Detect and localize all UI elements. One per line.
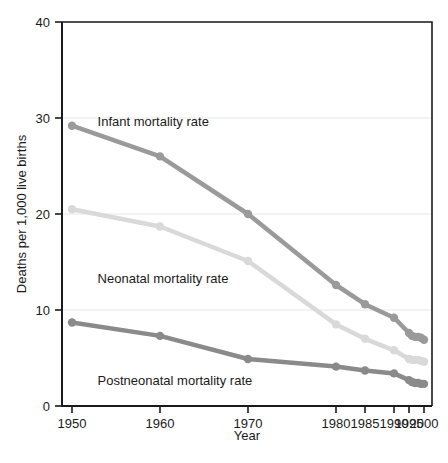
x-tick-label: 1950 (58, 416, 87, 431)
data-point-marker (156, 332, 164, 340)
data-point-marker (244, 257, 252, 265)
x-tick-marks (72, 406, 424, 413)
gridlines-group (62, 22, 432, 310)
data-point-marker (332, 281, 340, 289)
y-axis-title: Deaths per 1,000 live births (14, 134, 29, 293)
data-point-marker (420, 380, 428, 388)
data-point-marker (68, 122, 76, 130)
y-tick-label: 40 (36, 15, 50, 30)
data-point-marker (156, 152, 164, 160)
data-point-marker (390, 346, 398, 354)
data-point-marker (68, 205, 76, 213)
data-point-marker (420, 358, 428, 366)
y-tick-label: 30 (36, 111, 50, 126)
data-point-marker (156, 222, 164, 230)
series-label: Neonatal mortality rate (98, 271, 229, 286)
series-line (72, 126, 424, 340)
x-tick-label: 1980 (322, 416, 351, 431)
data-point-marker (420, 336, 428, 344)
data-point-marker (361, 335, 369, 343)
data-point-marker (390, 314, 398, 322)
series-label: Postneonatal mortality rate (98, 373, 253, 388)
data-point-marker (68, 318, 76, 326)
x-tick-label: 2000 (410, 416, 439, 431)
y-tick-label: 0 (43, 399, 50, 414)
series-lines-group (72, 126, 424, 384)
data-point-marker (332, 362, 340, 370)
data-point-marker (390, 369, 398, 377)
data-point-marker (244, 210, 252, 218)
series-annotations: Infant mortality rateNeonatal mortality … (98, 114, 253, 388)
data-point-marker (244, 355, 252, 363)
y-tick-label: 20 (36, 207, 50, 222)
x-axis-title: Year (234, 428, 261, 443)
data-point-marker (361, 366, 369, 374)
y-tick-labels: 010203040 (36, 15, 50, 414)
chart-canvas: 19501960197019801985199019952000 0102030… (0, 0, 448, 463)
x-tick-label: 1985 (351, 416, 380, 431)
y-tick-label: 10 (36, 303, 50, 318)
data-point-marker (332, 320, 340, 328)
series-label: Infant mortality rate (98, 114, 209, 129)
y-tick-marks (55, 22, 62, 406)
data-point-marker (361, 300, 369, 308)
x-tick-label: 1960 (146, 416, 175, 431)
series-markers-group (68, 122, 428, 389)
mortality-rate-line-chart: 19501960197019801985199019952000 0102030… (0, 0, 448, 463)
